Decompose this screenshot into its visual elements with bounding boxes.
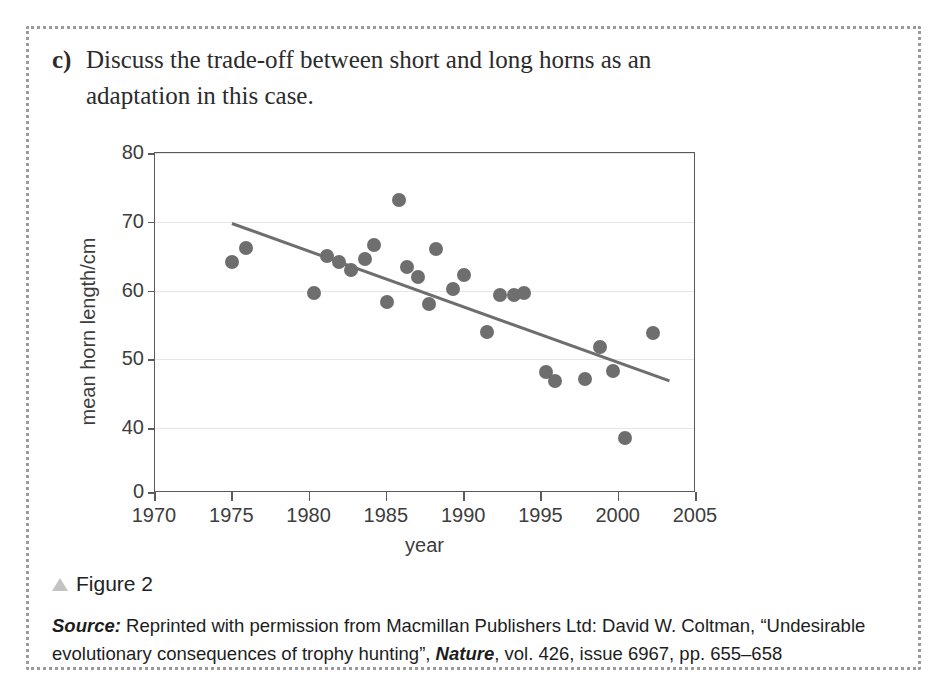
x-tick-label: 1980 — [286, 504, 331, 527]
x-axis-title: year — [154, 534, 695, 557]
trend-line — [232, 222, 670, 382]
data-point — [578, 372, 592, 386]
x-tick-label: 1975 — [209, 504, 254, 527]
data-point — [593, 340, 607, 354]
question-block: c)Discuss the trade-off between short an… — [52, 42, 752, 113]
data-point — [457, 268, 471, 282]
x-tick-label: 2005 — [673, 504, 718, 527]
data-point — [380, 295, 394, 309]
x-axis-tick-labels: 19701975198019851990199520002005 — [154, 492, 695, 502]
y-tick-label: 40 — [122, 416, 144, 439]
x-tick-label: 1985 — [364, 504, 409, 527]
x-tick-mark — [695, 492, 697, 501]
data-point — [606, 364, 620, 378]
data-point — [429, 242, 443, 256]
grid-line — [155, 428, 694, 429]
page-root: c)Discuss the trade-off between short an… — [0, 0, 947, 696]
x-tick-mark — [463, 492, 465, 501]
question-label: c) — [52, 42, 86, 78]
data-point — [239, 241, 253, 255]
grid-line — [155, 153, 694, 154]
x-tick-mark — [386, 492, 388, 501]
x-tick-label: 2000 — [595, 504, 640, 527]
data-point — [618, 431, 632, 445]
figure-caption-label: Figure 2 — [76, 572, 153, 596]
y-tick-label: 60 — [122, 278, 144, 301]
x-tick-mark — [309, 492, 311, 501]
x-tick-mark — [154, 492, 156, 501]
y-tick-mark — [148, 153, 155, 155]
data-point — [411, 270, 425, 284]
data-point — [307, 286, 321, 300]
data-point — [358, 252, 372, 266]
triangle-icon — [52, 578, 68, 591]
data-point — [548, 374, 562, 388]
data-point — [493, 288, 507, 302]
y-tick-mark — [148, 428, 155, 430]
source-text-part2: , vol. 426, issue 6967, pp. 655–658 — [494, 643, 782, 664]
x-tick-mark — [540, 492, 542, 501]
data-point — [446, 282, 460, 296]
y-axis-tick-labels: 40506070800 — [96, 152, 144, 492]
y-tick-label-zero: 0 — [133, 480, 144, 503]
data-point — [517, 286, 531, 300]
y-tick-label: 50 — [122, 347, 144, 370]
y-tick-mark — [148, 291, 155, 293]
data-point — [422, 297, 436, 311]
data-point — [480, 325, 494, 339]
data-point — [392, 193, 406, 207]
plot-area — [154, 152, 695, 492]
x-tick-label: 1990 — [441, 504, 486, 527]
x-tick-label: 1995 — [518, 504, 563, 527]
x-tick-label: 1970 — [132, 504, 177, 527]
data-point — [367, 238, 381, 252]
data-point — [225, 255, 239, 269]
y-tick-label: 70 — [122, 209, 144, 232]
y-tick-mark — [148, 222, 155, 224]
x-tick-mark — [231, 492, 233, 501]
chart-figure: mean horn length/cm 40506070800 19701975… — [0, 130, 947, 560]
x-tick-mark — [618, 492, 620, 501]
data-point — [344, 263, 358, 277]
source-note: Source: Reprinted with permission from M… — [52, 612, 897, 668]
source-journal: Nature — [436, 643, 495, 664]
y-tick-mark — [148, 359, 155, 361]
source-prefix: Source: — [52, 615, 121, 636]
data-point — [646, 326, 660, 340]
figure-caption: Figure 2 — [52, 572, 153, 596]
question-text: Discuss the trade-off between short and … — [86, 42, 711, 113]
y-tick-label: 80 — [122, 141, 144, 164]
